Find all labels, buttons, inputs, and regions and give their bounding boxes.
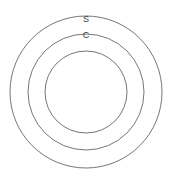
label-c: C bbox=[83, 30, 90, 40]
concentric-circles-diagram: S C bbox=[0, 0, 175, 183]
inner-circle bbox=[45, 51, 127, 133]
diagram-canvas: S C bbox=[0, 0, 175, 183]
label-s: S bbox=[83, 14, 89, 24]
